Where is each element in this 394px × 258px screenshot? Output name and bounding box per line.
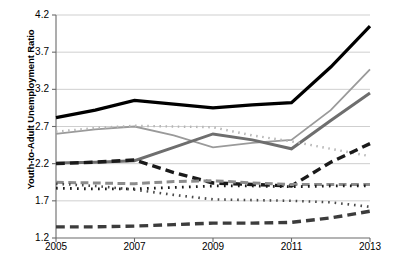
x-axis-tick-label: 2011: [267, 241, 317, 253]
x-axis-tick-label: 2005: [31, 241, 81, 253]
x-axis-tick-label: 2007: [110, 241, 160, 253]
x-axis-tick-label: 2013: [345, 241, 394, 253]
chart-container: Youth-to-Adult Unemployment Ratio 1.21.7…: [0, 0, 394, 258]
chart-plot-svg: [0, 0, 394, 258]
series-black-dashed: [56, 144, 370, 186]
series-black-dotted: [56, 186, 370, 189]
series-black-solid: [56, 26, 370, 117]
x-axis-tick-label: 2009: [188, 241, 238, 253]
series-lightgray-dotted: [56, 126, 370, 156]
series-darkgray-dashed-low: [56, 211, 370, 227]
x-axis-tick-labels: 20052007200920112013: [0, 241, 394, 257]
